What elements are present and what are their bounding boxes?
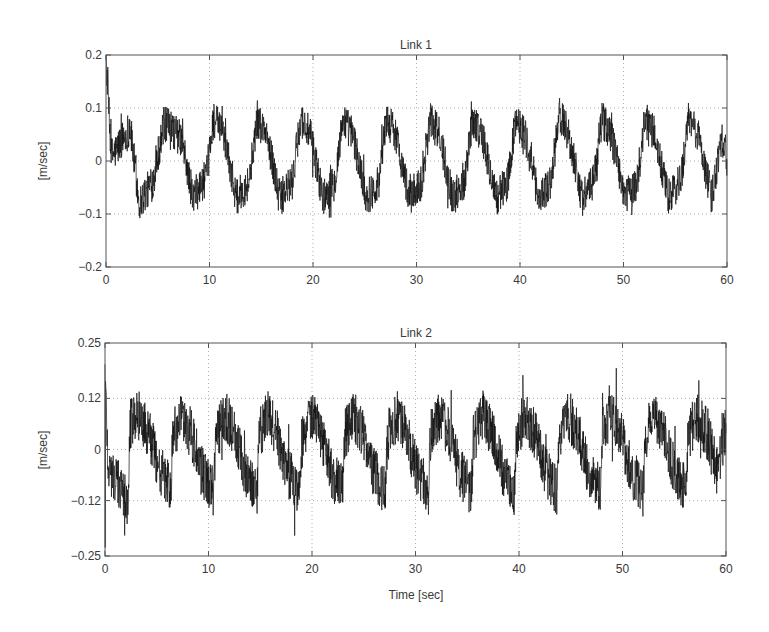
figure: Link 1 0102030405060 −0.2−0.100.10.2 [m/… [0,0,769,632]
y-tick-label: −0.2 [78,260,102,274]
y-tick-labels: −0.2−0.100.10.2 [78,48,102,274]
y-tick-label: 0 [95,154,102,168]
x-tick-labels: 0102030405060 [102,562,733,576]
y-tick-label: 0.25 [78,336,102,350]
chart-title-link-2: Link 2 [400,326,432,340]
x-tick-label: 50 [616,562,630,576]
x-axis-label: Time [sec] [389,588,444,602]
y-tick-labels: −0.25−0.1200.120.25 [71,336,102,563]
x-tick-label: 20 [305,562,319,576]
axes-link-2: Link 2 0102030405060 −0.25−0.1200.120.25… [36,326,733,576]
grid-lines [106,55,727,267]
x-tick-label: 20 [306,273,320,287]
x-tick-label: 60 [719,562,733,576]
y-tick-label: 0.1 [85,101,102,115]
x-tick-label: 10 [203,273,217,287]
axes-link-1: Link 1 0102030405060 −0.2−0.100.10.2 [m/… [36,38,734,287]
y-tick-label: 0.12 [78,391,102,405]
y-axis-label-link-2: [m/sec] [36,431,50,470]
x-tick-label: 0 [103,273,110,287]
x-tick-label: 0 [102,562,109,576]
x-tick-label: 10 [202,562,216,576]
x-tick-label: 60 [720,273,734,287]
x-tick-label: 30 [409,562,423,576]
x-tick-labels: 0102030405060 [103,273,734,287]
chart-title-link-1: Link 1 [400,38,432,52]
y-tick-label: 0.2 [85,48,102,62]
y-tick-label: −0.12 [71,494,102,508]
x-tick-label: 40 [513,273,527,287]
y-tick-label: −0.1 [78,207,102,221]
y-tick-label: 0 [94,443,101,457]
y-axis-label-link-1: [m/sec] [36,142,50,181]
x-tick-label: 30 [410,273,424,287]
x-tick-label: 50 [617,273,631,287]
x-tick-label: 40 [512,562,526,576]
y-tick-label: −0.25 [71,549,102,563]
